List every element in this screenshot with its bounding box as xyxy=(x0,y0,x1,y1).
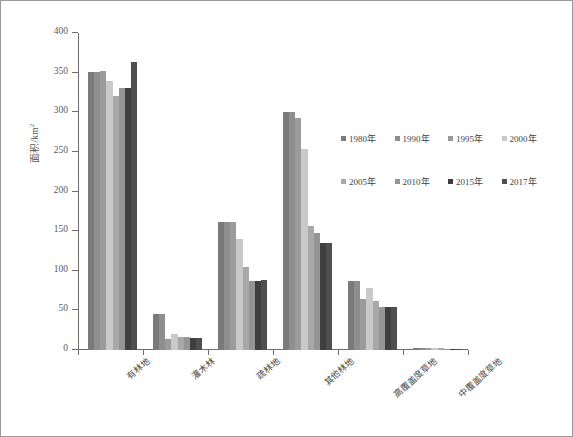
y-axis-title-exponent: 2 xyxy=(28,124,36,128)
y-axis-line xyxy=(78,33,79,350)
y-axis-title-text: 面积/km xyxy=(30,127,40,163)
y-axis-tick-label: 50 xyxy=(59,302,69,315)
legend-item[interactable]: 2017年 xyxy=(502,175,556,188)
y-axis-tick-label: 350 xyxy=(54,65,68,78)
legend-swatch xyxy=(448,136,453,141)
y-axis-tick-label: 0 xyxy=(63,342,68,355)
legend-swatch xyxy=(341,179,346,184)
legend-label: 2000年 xyxy=(510,132,537,145)
legend-swatch xyxy=(502,136,507,141)
legend-label: 2010年 xyxy=(403,175,430,188)
bar xyxy=(131,62,137,350)
legend-swatch xyxy=(341,136,346,141)
legend-swatch xyxy=(502,179,507,184)
x-axis-tick xyxy=(468,350,469,355)
legend-label: 2005年 xyxy=(349,175,376,188)
bar xyxy=(456,349,462,350)
legend-item[interactable]: 1980年 xyxy=(341,132,395,145)
legend-label: 2017年 xyxy=(510,175,537,188)
x-axis-tick xyxy=(78,350,79,355)
legend-item[interactable]: 1995年 xyxy=(448,132,502,145)
y-axis-tick: 100 xyxy=(72,270,78,271)
x-axis-label: 中覆盖度草地 xyxy=(457,356,504,400)
bar xyxy=(261,280,267,350)
legend-label: 1990年 xyxy=(403,132,430,145)
x-axis-tick xyxy=(403,350,404,355)
y-axis-tick: 150 xyxy=(72,230,78,231)
legend-label: 1995年 xyxy=(456,132,483,145)
bar-group xyxy=(218,33,266,350)
x-axis-label: 有林地 xyxy=(125,356,152,382)
x-axis-tick xyxy=(208,350,209,355)
legend-label: 1980年 xyxy=(349,132,376,145)
legend-item[interactable]: 1990年 xyxy=(395,132,449,145)
y-axis-tick: 350 xyxy=(72,72,78,73)
y-axis-title: 面积/km2 xyxy=(27,124,41,163)
legend-item[interactable]: 2000年 xyxy=(502,132,556,145)
y-axis-tick-label: 400 xyxy=(54,25,68,38)
x-axis-label: 灌木林 xyxy=(190,356,217,382)
x-axis-label: 其他林地 xyxy=(323,356,357,388)
bar xyxy=(196,338,202,350)
x-axis-label: 疏林地 xyxy=(255,356,282,382)
x-axis-label: 高覆盖度草地 xyxy=(392,356,439,400)
legend-swatch xyxy=(448,179,453,184)
x-axis-tick xyxy=(338,350,339,355)
bar-group xyxy=(88,33,136,350)
chart-legend: 1980年1990年1995年2000年2005年2010年2015年2017年 xyxy=(341,132,555,188)
chart-page: 面积/km2 050100150200250300350400 有林地灌木林疏林… xyxy=(0,0,573,437)
legend-swatch xyxy=(395,136,400,141)
bar-group xyxy=(413,33,461,350)
bar-group xyxy=(348,33,396,350)
plot-area: 050100150200250300350400 xyxy=(78,33,468,350)
y-axis-tick: 300 xyxy=(72,111,78,112)
x-axis-tick xyxy=(143,350,144,355)
bar xyxy=(391,307,397,350)
y-axis-tick: 50 xyxy=(72,309,78,310)
x-axis-tick xyxy=(273,350,274,355)
legend-swatch xyxy=(395,179,400,184)
legend-item[interactable]: 2005年 xyxy=(341,175,395,188)
bar-group xyxy=(283,33,331,350)
y-axis-tick: 250 xyxy=(72,151,78,152)
legend-label: 2015年 xyxy=(456,175,483,188)
bar xyxy=(326,243,332,350)
bar-group xyxy=(153,33,201,350)
y-axis-tick-label: 250 xyxy=(54,144,68,157)
y-axis-tick: 400 xyxy=(72,32,78,33)
y-axis-tick-label: 200 xyxy=(54,184,68,197)
y-axis-tick-label: 300 xyxy=(54,104,68,117)
y-axis-tick: 200 xyxy=(72,191,78,192)
y-axis-tick-label: 100 xyxy=(54,263,68,276)
y-axis-tick-label: 150 xyxy=(54,223,68,236)
legend-item[interactable]: 2010年 xyxy=(395,175,449,188)
legend-item[interactable]: 2015年 xyxy=(448,175,502,188)
